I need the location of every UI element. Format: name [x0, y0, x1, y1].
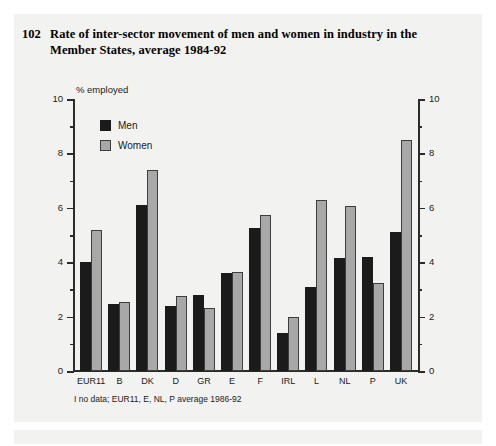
chart-area: % employed 00224466881010 Men Women EUR1… [22, 84, 470, 400]
bar-women-eur11 [91, 230, 102, 371]
y-tick-major-right-4 [418, 262, 425, 264]
x-axis-label-p: P [359, 376, 387, 386]
y-tick-major-right-0 [418, 371, 425, 373]
x-axis-label-nl: NL [331, 376, 359, 386]
y-tick-major-right-6 [418, 208, 425, 210]
y-tick-label-left-10: 10 [35, 93, 63, 104]
y-tick-label-left-2: 2 [35, 311, 63, 322]
bar-women-e [232, 272, 243, 371]
bar-men-uk [390, 232, 401, 371]
y-axis-unit-label: % employed [76, 84, 128, 95]
bar-women-l [316, 200, 327, 371]
y-tick-major-right-8 [418, 153, 425, 155]
y-tick-minor-right-1 [418, 344, 422, 346]
y-tick-minor-right-9 [418, 126, 422, 128]
y-tick-label-left-6: 6 [35, 202, 63, 213]
bar-group [331, 99, 359, 371]
y-tick-major-left-2 [67, 317, 74, 319]
page-root: 102 Rate of inter-sector movement of men… [0, 0, 496, 446]
bar-group [302, 99, 330, 371]
y-tick-major-right-10 [418, 99, 425, 101]
bar-men-b [108, 304, 119, 371]
x-axis-label-f: F [246, 376, 274, 386]
bar-men-d [165, 306, 176, 371]
bar-group [190, 99, 218, 371]
bar-men-p [362, 257, 373, 371]
x-axis-label-l: L [302, 376, 330, 386]
y-tick-major-left-0 [67, 371, 74, 373]
bar-men-irl [277, 333, 288, 371]
y-tick-label-right-8: 8 [429, 147, 457, 158]
y-tick-label-right-0: 0 [429, 365, 457, 376]
bar-group [133, 99, 161, 371]
bar-men-f [249, 228, 260, 371]
bar-group [246, 99, 274, 371]
y-tick-label-right-6: 6 [429, 202, 457, 213]
bar-group [218, 99, 246, 371]
y-tick-minor-right-7 [418, 181, 422, 183]
x-axis-label-dk: DK [134, 376, 162, 386]
y-tick-label-left-8: 8 [35, 147, 63, 158]
figure-footnote: I no data; EUR11, E, NL, P average 1986-… [74, 394, 241, 404]
figure-header: 102 Rate of inter-sector movement of men… [22, 26, 452, 58]
bar-women-gr [204, 308, 215, 371]
bar-group [162, 99, 190, 371]
y-tick-major-left-10 [67, 99, 74, 101]
figure-number: 102 [22, 26, 50, 42]
bar-men-dk [136, 205, 147, 371]
x-axis-label-uk: UK [387, 376, 415, 386]
y-tick-label-right-10: 10 [429, 93, 457, 104]
bar-men-nl [334, 258, 345, 371]
bar-women-dk [147, 170, 158, 371]
bar-men-eur11 [80, 262, 91, 371]
bar-group [274, 99, 302, 371]
bar-men-e [221, 273, 232, 371]
bar-men-gr [193, 295, 204, 371]
bar-group [387, 99, 415, 371]
y-tick-label-right-4: 4 [429, 256, 457, 267]
x-axis-label-gr: GR [190, 376, 218, 386]
bar-group [359, 99, 387, 371]
bar-women-nl [345, 206, 356, 371]
bar-women-b [119, 302, 130, 371]
bar-women-d [176, 296, 187, 371]
y-tick-major-left-6 [67, 208, 74, 210]
bar-group [105, 99, 133, 371]
x-axis-label-eur11: EUR11 [77, 376, 105, 386]
y-tick-minor-right-3 [418, 289, 422, 291]
figure-title: Rate of inter-sector movement of men and… [50, 26, 452, 58]
x-axis-label-b: B [105, 376, 133, 386]
y-tick-label-left-4: 4 [35, 256, 63, 267]
bar-group [77, 99, 105, 371]
bar-women-irl [288, 317, 299, 371]
y-tick-major-left-8 [67, 153, 74, 155]
x-axis-labels: EUR11BDKDGREFIRLLNLPUK [74, 376, 418, 386]
y-tick-minor-right-5 [418, 235, 422, 237]
y-tick-label-left-0: 0 [35, 365, 63, 376]
y-tick-major-right-2 [418, 317, 425, 319]
y-tick-label-right-2: 2 [429, 311, 457, 322]
plot-region [74, 99, 418, 371]
x-axis-label-irl: IRL [274, 376, 302, 386]
bottom-panel-strip [14, 430, 482, 444]
bar-women-f [260, 215, 271, 371]
x-axis-label-e: E [218, 376, 246, 386]
y-tick-major-left-4 [67, 262, 74, 264]
bar-women-p [373, 283, 384, 371]
x-axis-label-d: D [162, 376, 190, 386]
bar-women-uk [401, 140, 412, 371]
bar-groups [74, 99, 418, 371]
bar-men-l [305, 287, 316, 371]
